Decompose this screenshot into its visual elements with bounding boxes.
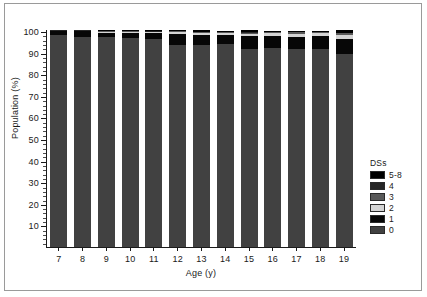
y-axis-tick-label: 30 [29, 178, 39, 188]
bar-slot: 12 [166, 30, 190, 247]
plot-area: 100908070605040302010 789101112131415161… [46, 30, 356, 248]
x-axis-tick-label: 19 [339, 254, 349, 264]
y-axis-minor-tick [43, 218, 46, 219]
x-axis-tick [249, 247, 250, 251]
legend-item[interactable]: 4 [370, 181, 418, 191]
x-axis-tick-label: 8 [80, 254, 85, 264]
stacked-bar[interactable] [241, 30, 258, 247]
stacked-bar[interactable] [264, 30, 281, 247]
x-axis-tick [272, 247, 273, 251]
y-axis-minor-tick [43, 131, 46, 132]
y-axis-major-tick [41, 75, 46, 76]
y-axis-major-tick [41, 118, 46, 119]
figure-root: Population (%) 100908070605040302010 789… [0, 0, 427, 297]
bar-segment [50, 35, 67, 247]
bar-segment [145, 39, 162, 247]
y-axis-minor-tick [43, 41, 46, 42]
x-axis-tick-label: 13 [196, 254, 206, 264]
y-axis-minor-tick [43, 166, 46, 167]
x-axis-tick [201, 247, 202, 251]
y-axis-minor-tick [43, 88, 46, 89]
bar-slot: 9 [95, 30, 119, 247]
y-axis-minor-tick [43, 244, 46, 245]
stacked-bar[interactable] [145, 30, 162, 247]
legend-swatch [370, 204, 385, 212]
y-axis-tick-label: 100 [23, 27, 39, 37]
bar-slot: 10 [118, 30, 142, 247]
bar-segment [241, 49, 258, 247]
legend-item[interactable]: 5-8 [370, 170, 418, 180]
y-axis-tick-label: 70 [29, 92, 39, 102]
stacked-bar[interactable] [169, 30, 186, 247]
stacked-bar[interactable] [336, 30, 353, 247]
x-axis-tick-label: 15 [244, 254, 254, 264]
y-axis-minor-tick [43, 106, 46, 107]
y-axis-minor-tick [43, 49, 46, 50]
y-axis-minor-tick [43, 144, 46, 145]
bar-slot: 7 [47, 30, 71, 247]
stacked-bar[interactable] [74, 30, 91, 247]
bar-segment [312, 49, 329, 247]
bar-segment [169, 45, 186, 247]
stacked-bar[interactable] [217, 30, 234, 247]
bar-segment [264, 48, 281, 247]
y-axis-minor-tick [43, 153, 46, 154]
y-axis-tick-label: 50 [29, 135, 39, 145]
y-axis-minor-tick [43, 196, 46, 197]
stacked-bar[interactable] [288, 30, 305, 247]
y-axis-major-tick [41, 162, 46, 163]
stacked-bar[interactable] [122, 30, 139, 247]
x-axis-tick-label: 17 [291, 254, 301, 264]
y-axis-tick-label: 90 [29, 49, 39, 59]
y-axis-minor-tick [43, 239, 46, 240]
x-axis-tick-label: 16 [268, 254, 278, 264]
y-axis-minor-tick [43, 110, 46, 111]
bar-slot: 17 [285, 30, 309, 247]
legend-title: DSs [370, 158, 418, 168]
y-axis-minor-tick [43, 209, 46, 210]
y-axis-minor-tick [43, 114, 46, 115]
y-axis-major-tick [41, 183, 46, 184]
y-axis-minor-tick [43, 123, 46, 124]
legend-swatch [370, 182, 385, 190]
bar-segment [193, 45, 210, 247]
stacked-bar[interactable] [193, 30, 210, 247]
y-axis-minor-tick [43, 231, 46, 232]
legend-swatch [370, 171, 385, 179]
x-axis-tick [82, 247, 83, 251]
stacked-bar[interactable] [98, 30, 115, 247]
y-axis-tick-label: 40 [29, 157, 39, 167]
bar-slot: 11 [142, 30, 166, 247]
legend-item[interactable]: 3 [370, 192, 418, 202]
stacked-bar[interactable] [50, 30, 67, 247]
y-axis-minor-tick [43, 188, 46, 189]
y-axis-major-tick [41, 226, 46, 227]
y-axis-minor-tick [43, 127, 46, 128]
bar-slot: 8 [71, 30, 95, 247]
stacked-bar[interactable] [312, 30, 329, 247]
bar-segment [312, 36, 329, 49]
bar-segment [336, 39, 353, 54]
y-axis-minor-tick [43, 149, 46, 150]
y-axis-minor-tick [43, 62, 46, 63]
bar-segment [241, 36, 258, 49]
y-axis-major-tick [41, 32, 46, 33]
y-axis-minor-tick [43, 36, 46, 37]
x-axis-tick [296, 247, 297, 251]
bar-slot: 14 [213, 30, 237, 247]
bar-slot: 16 [261, 30, 285, 247]
y-axis-minor-tick [43, 93, 46, 94]
legend-item[interactable]: 0 [370, 225, 418, 235]
bar-segment [217, 35, 234, 44]
legend-label: 5-8 [389, 170, 402, 180]
x-axis-tick [320, 247, 321, 251]
legend-swatch [370, 226, 385, 234]
y-axis-minor-tick [43, 45, 46, 46]
x-axis-tick [58, 247, 59, 251]
legend-item[interactable]: 2 [370, 203, 418, 213]
y-axis-minor-tick [43, 201, 46, 202]
bar-segment [193, 35, 210, 45]
y-axis-major-tick [41, 140, 46, 141]
legend-item[interactable]: 1 [370, 214, 418, 224]
legend-label: 4 [389, 181, 394, 191]
